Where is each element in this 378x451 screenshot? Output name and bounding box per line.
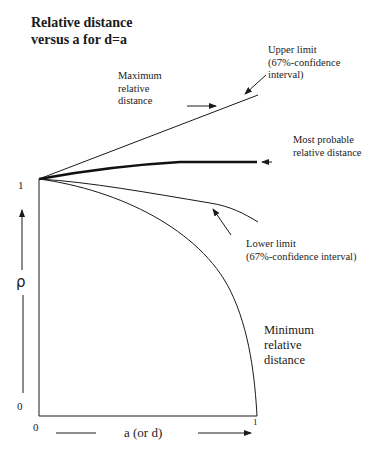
minimum-label-line: Minimum [264, 323, 314, 338]
maximum-label-line: relative [118, 83, 162, 96]
minimum-distance-line [39, 179, 257, 416]
y-tick-0: 0 [17, 400, 23, 412]
maximum-label-line: Maximum [118, 70, 162, 83]
most-probable-line [39, 162, 257, 179]
upper-label-line: interval) [268, 69, 340, 82]
x-axis-label: a (or d) [124, 425, 162, 441]
maximum-distance-line [39, 95, 258, 179]
x-tick-1: 1 [253, 417, 258, 427]
lower-label-line: Lower limit [246, 238, 357, 251]
lower-limit-label: Lower limit (67%-confidence interval) [246, 238, 357, 263]
upper-label-line: (67%-confidence [268, 57, 340, 70]
maximum-label-line: distance [118, 95, 162, 108]
upper-limit-label: Upper limit (67%-confidence interval) [268, 44, 340, 82]
minimum-label-line: relative [264, 338, 314, 353]
upper-limit-arrow [245, 75, 266, 94]
most-probable-label: Most probable relative distance [293, 134, 362, 159]
minimum-label: Minimum relative distance [264, 323, 314, 368]
lower-limit-arrow [213, 209, 231, 235]
y-axis-label: ρ [16, 273, 26, 291]
lower-label-line: (67%-confidence interval) [246, 251, 357, 264]
y-tick-1: 1 [18, 179, 24, 191]
most-probable-label-line: Most probable [293, 134, 362, 147]
x-tick-0: 0 [33, 421, 39, 433]
minimum-label-line: distance [264, 353, 314, 368]
upper-label-line: Upper limit [268, 44, 340, 57]
most-probable-label-line: relative distance [293, 147, 362, 160]
maximum-label: Maximum relative distance [118, 70, 162, 108]
